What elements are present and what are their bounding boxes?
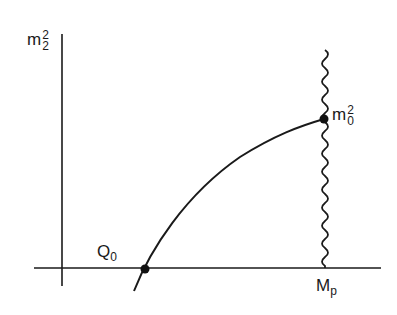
mp-label: Mp [316, 277, 337, 297]
curve [134, 119, 324, 291]
y-axis-label: m22 [27, 30, 49, 52]
diagram-canvas [0, 0, 397, 315]
wavy-line [322, 50, 328, 268]
q0-label: Q0 [97, 243, 117, 263]
m0-label: m20 [332, 105, 354, 127]
m0-point [320, 115, 329, 124]
q0-point [141, 265, 150, 274]
